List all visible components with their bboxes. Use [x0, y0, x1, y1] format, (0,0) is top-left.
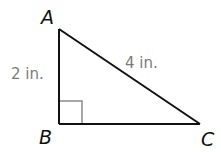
vertex-label-a: A	[39, 6, 54, 28]
vertex-label-b: B	[39, 126, 52, 148]
vertex-label-c: C	[201, 128, 215, 150]
side-label-ab: 2 in.	[11, 65, 44, 83]
triangle-diagram: A B C 2 in. 4 in.	[0, 0, 221, 162]
side-label-ac: 4 in.	[125, 54, 158, 72]
side-ac	[59, 29, 200, 124]
right-angle-marker	[59, 101, 82, 124]
